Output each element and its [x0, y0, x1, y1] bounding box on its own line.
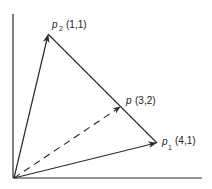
vector-p-dashed — [14, 107, 120, 178]
vector-diagram: p 2 (1,1) p (3,2) p 1 (4,1) — [0, 0, 212, 189]
label-p2: p 2 (1,1) — [51, 19, 87, 32]
label-p1: p 1 (4,1) — [161, 135, 196, 151]
label-p-coords: (3,2) — [135, 95, 156, 106]
label-p2-coords: (1,1) — [66, 19, 87, 30]
label-p1-name: p — [161, 136, 168, 147]
label-p2-subscript: 2 — [59, 25, 63, 32]
vector-p2 — [14, 35, 48, 178]
label-p: p (3,2) — [125, 95, 156, 106]
label-p1-coords: (4,1) — [175, 135, 196, 146]
segment-p2-p1 — [48, 34, 157, 143]
vector-p1 — [14, 143, 156, 178]
label-p2-name: p — [51, 19, 58, 30]
label-p-name: p — [125, 95, 132, 106]
label-p1-subscript: 1 — [168, 144, 172, 151]
